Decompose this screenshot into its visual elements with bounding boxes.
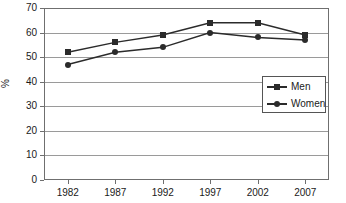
series-line-women <box>68 33 306 65</box>
legend-label-men: Men <box>291 81 310 92</box>
legend-label-women: Women <box>291 98 325 109</box>
y-tick-mark <box>40 106 44 107</box>
legend: Men Women <box>262 76 326 113</box>
y-tick-mark <box>40 57 44 58</box>
legend-item-women: Women <box>263 95 325 112</box>
y-tick-mark <box>40 82 44 83</box>
y-tick-mark <box>40 33 44 34</box>
legend-item-men: Men <box>263 78 325 95</box>
y-tick-mark <box>40 131 44 132</box>
y-tick-mark <box>40 8 44 9</box>
legend-swatch-circle-icon <box>267 99 287 109</box>
y-tick-mark <box>40 155 44 156</box>
legend-swatch-square-icon <box>267 82 287 92</box>
line-chart: 010203040506070 % 1982198719921997200220… <box>0 0 346 203</box>
y-tick-mark <box>40 180 44 181</box>
